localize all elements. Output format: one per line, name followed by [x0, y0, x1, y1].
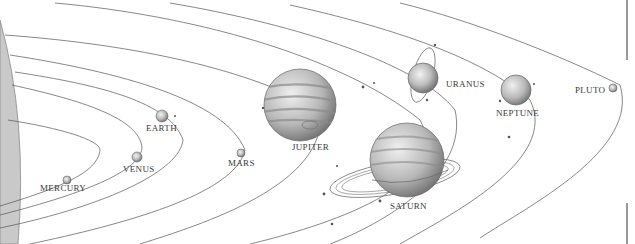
label-neptune: NEPTUNE	[496, 109, 539, 118]
planet-earth	[156, 110, 168, 122]
orbit-pluto	[400, 3, 622, 238]
label-venus: VENUS	[123, 165, 155, 174]
planet-jupiter	[262, 69, 338, 141]
moons	[174, 44, 535, 226]
orbit-jupiter	[5, 35, 321, 244]
planet-pluto	[609, 84, 617, 92]
orbit-mars	[10, 55, 245, 244]
label-pluto: PLUTO	[575, 86, 605, 95]
orbit-venus	[0, 85, 142, 215]
label-jupiter: JUPITER	[292, 143, 329, 152]
planet-saturn	[327, 123, 463, 205]
label-earth: EARTH	[146, 124, 177, 133]
solar-system-diagram	[0, 0, 635, 244]
label-mars: MARS	[228, 159, 255, 168]
label-saturn: SATURN	[390, 202, 427, 211]
planet-venus	[132, 152, 142, 162]
label-uranus: URANUS	[446, 80, 485, 89]
orbit-saturn	[55, 3, 426, 244]
planet-neptune	[501, 75, 531, 105]
planet-uranus	[406, 45, 440, 104]
label-mercury: MERCURY	[40, 184, 86, 193]
planet-mars	[237, 149, 245, 157]
orbit-earth	[0, 72, 183, 228]
